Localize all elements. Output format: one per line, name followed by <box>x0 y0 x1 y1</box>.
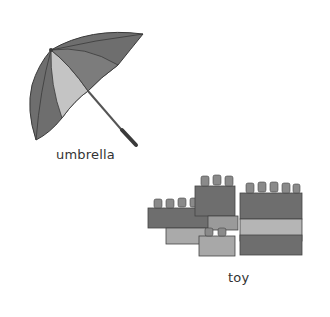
umbrella-illustration <box>20 25 150 150</box>
toy-blocks-illustration <box>138 165 318 260</box>
toy-label: toy <box>228 270 249 285</box>
umbrella-label: umbrella <box>56 147 115 162</box>
